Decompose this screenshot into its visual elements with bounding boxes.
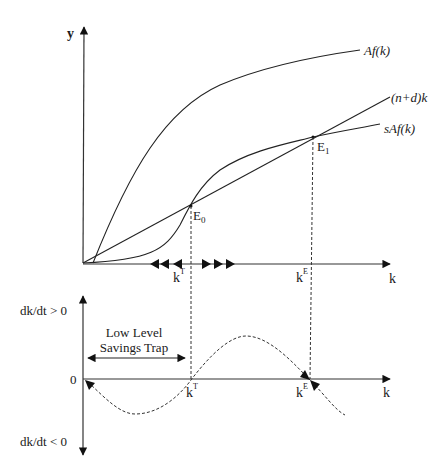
y-axis-label: y [67,26,74,41]
k-axis-top-label: k [389,271,396,286]
kE-bottom-label: kE [296,382,308,400]
lower-panel: dk/dt > 0 dk/dt < 0 0 Low Level Savings … [20,296,390,455]
dkdt-positive-label: dk/dt > 0 [20,303,67,318]
e0-label: E0 [193,208,206,225]
dkdt-negative-label: dk/dt < 0 [20,434,67,449]
kE-dashed-guide [310,137,313,379]
e1-label: E1 [317,139,329,156]
kE-top-label: kE [296,267,308,285]
kT-bottom-label: kT [186,382,198,400]
trap-label-line2: Savings Trap [100,340,168,355]
af-label: Af(k) [363,43,390,58]
y-axis [83,27,84,263]
kT-top-label: kT [173,267,185,285]
saf-label: sAf(k) [384,121,415,136]
poverty-trap-diagram: y Af(k) (n+d)k sAf(k) E0 E1 kT kE k dk/d… [0,0,448,475]
saf-curve [83,124,380,263]
af-curve [93,50,360,263]
ndk-line [83,97,390,263]
k-axis-bottom-label: k [383,385,390,400]
ndk-label: (n+d)k [391,90,427,105]
trap-label-line1: Low Level [106,325,163,340]
zero-label: 0 [70,372,77,387]
